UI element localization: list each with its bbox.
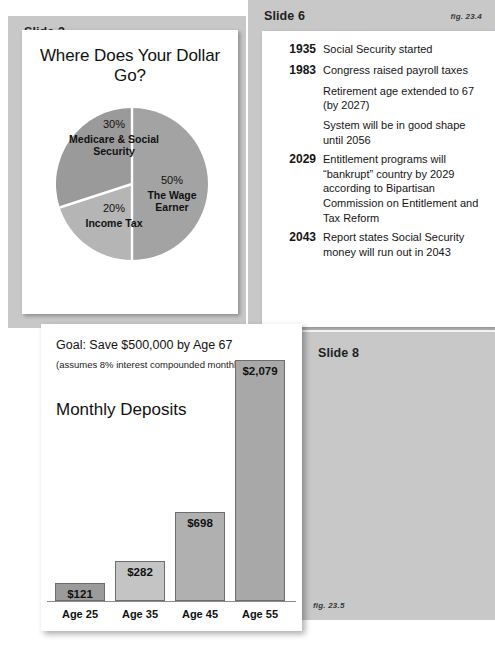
timeline-text: Entitlement programs will “bankrupt” cou…	[323, 152, 485, 225]
list-item: 2043 Report states Social Security money…	[276, 230, 485, 259]
timeline-year	[276, 118, 323, 147]
bar-age-35: $282	[115, 561, 165, 601]
slide-6-title: Slide 6	[264, 9, 305, 23]
slide-8-figure-label: fig. 23.5	[313, 601, 345, 610]
timeline-list: 1935 Social Security started 1983 Congre…	[276, 42, 485, 265]
pie-chart: 30% Medicare & Social Security 50% The W…	[56, 82, 208, 287]
timeline-text: Social Security started	[323, 42, 485, 58]
list-item: Retirement age extended to 67 (by 2027)	[276, 84, 485, 113]
timeline-text: Congress raised payroll taxes	[323, 63, 485, 79]
slide-8-frame: Slide 8 fig. 23.5	[300, 332, 495, 620]
bar-category-label: Age 55	[233, 608, 287, 620]
monthly-deposits-page: Goal: Save $500,000 by Age 67 (assumes 8…	[41, 324, 302, 631]
list-item: System will be in good shape until 2056	[276, 118, 485, 147]
bar-value-label: $2,079	[236, 365, 284, 377]
slide-6-page: 1935 Social Security started 1983 Congre…	[262, 31, 495, 327]
timeline-text: Report states Social Security money will…	[323, 230, 485, 259]
bar-value-label: $282	[116, 566, 164, 578]
bar-age-25: $121	[55, 583, 105, 601]
bar-category-label: Age 25	[53, 608, 107, 620]
timeline-year: 1935	[276, 42, 323, 58]
pie-chart-title: Where Does Your Dollar Go?	[22, 46, 238, 86]
timeline-year	[276, 84, 323, 113]
bar-chart: $121 Age 25 $282 Age 35 $698 Age 45 $2,0…	[47, 331, 296, 601]
bar-age-55: $2,079	[235, 360, 285, 601]
list-item: 1935 Social Security started	[276, 42, 485, 58]
slide-6-frame: Slide 6 fig. 23.4 1935 Social Security s…	[248, 0, 495, 330]
timeline-year: 1983	[276, 63, 323, 79]
list-item: 1983 Congress raised payroll taxes	[276, 63, 485, 79]
timeline-year: 2029	[276, 152, 323, 225]
slide-3-frame: Slide 3 fig. 23.3 Where Does Your Dollar…	[8, 16, 246, 328]
slide-8-title: Slide 8	[318, 346, 359, 360]
timeline-text: System will be in good shape until 2056	[323, 118, 485, 147]
bar-chart-baseline	[47, 601, 296, 602]
bar-category-label: Age 45	[173, 608, 227, 620]
timeline-text: Retirement age extended to 67 (by 2027)	[323, 84, 485, 113]
bar-category-label: Age 35	[113, 608, 167, 620]
slide-6-figure-label: fig. 23.4	[450, 12, 482, 21]
timeline-year: 2043	[276, 230, 323, 259]
list-item: 2029 Entitlement programs will “bankrupt…	[276, 152, 485, 225]
bar-value-label: $121	[56, 588, 104, 600]
slide-3-page: Where Does Your Dollar Go? 30% Me	[22, 30, 238, 314]
bar-value-label: $698	[176, 517, 224, 529]
pie-chart-svg	[56, 82, 208, 287]
pie-slice-wage-earner	[132, 108, 208, 260]
bar-age-45: $698	[175, 512, 225, 601]
